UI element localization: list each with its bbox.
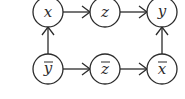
node-xbar-label: x <box>158 60 167 78</box>
node-xbar: x <box>147 54 177 84</box>
edge-ybar-to-zbar <box>63 63 90 75</box>
node-zbar-label: z <box>100 60 109 78</box>
edge-z-to-y <box>120 6 147 18</box>
node-x: x <box>33 0 63 27</box>
node-ybar-label: y <box>43 59 53 77</box>
causal-diagram: x z y y z x <box>0 0 185 99</box>
edge-zbar-to-xbar <box>120 63 147 75</box>
node-y-label: y <box>157 2 167 20</box>
node-x-label: x <box>44 3 53 21</box>
edge-x-to-z <box>63 6 90 18</box>
node-z: z <box>90 0 120 27</box>
edge-ybar-to-x <box>42 27 54 54</box>
node-y: y <box>147 0 177 27</box>
node-ybar: y <box>33 54 63 84</box>
edge-xbar-to-y <box>156 27 168 54</box>
node-zbar: z <box>90 54 120 84</box>
node-z-label: z <box>100 3 109 21</box>
